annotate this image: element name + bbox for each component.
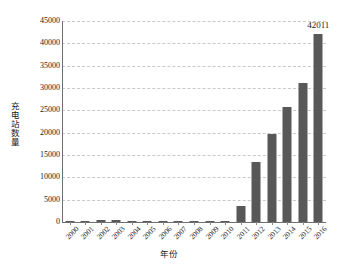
x-axis-tick-label: 2002 <box>95 225 111 241</box>
bar-slot <box>124 21 140 222</box>
bar <box>283 107 292 222</box>
x-axis-tick-label: 2001 <box>80 225 96 241</box>
x-axis-tick-labels: 2000200120022003200420052006200720082009… <box>62 222 326 250</box>
x-axis-tick-label: 2015 <box>297 225 313 241</box>
bar-slot <box>78 21 94 222</box>
x-axis-tick-mark <box>303 222 304 225</box>
bar-slot <box>171 21 187 222</box>
bar <box>298 83 307 222</box>
x-axis-tick-label: 2016 <box>313 225 329 241</box>
x-axis-tick-label: 2003 <box>111 225 127 241</box>
x-axis-tick-label: 2008 <box>188 225 204 241</box>
x-axis-tick-mark <box>241 222 242 225</box>
bar-slot <box>93 21 109 222</box>
bar-slot <box>295 21 311 222</box>
bar-slot <box>248 21 264 222</box>
x-axis-tick-mark <box>225 222 226 225</box>
x-axis-tick-label: 2004 <box>126 225 142 241</box>
y-axis-tick-label: 15000 <box>16 151 60 159</box>
y-axis-tick-label: 25000 <box>16 106 60 114</box>
bar-slot <box>109 21 125 222</box>
y-axis-tick-label: 30000 <box>16 84 60 92</box>
bar-slot <box>62 21 78 222</box>
bar <box>267 134 276 222</box>
x-axis-tick-label: 2013 <box>266 225 282 241</box>
y-axis-tick-label: 20000 <box>16 129 60 137</box>
x-axis-tick-mark <box>116 222 117 225</box>
x-axis-tick-mark <box>178 222 179 225</box>
x-axis-tick-mark <box>147 222 148 225</box>
x-axis-tick-mark <box>101 222 102 225</box>
bar-slot <box>264 21 280 222</box>
x-axis-tick-mark <box>194 222 195 225</box>
x-axis-tick-mark <box>132 222 133 225</box>
bar <box>236 206 245 222</box>
bar-value-label: 42011 <box>307 21 329 30</box>
bar-chart: 充电站数量 0500010000150002000025000300003500… <box>0 0 337 265</box>
x-axis-tick-label: 2012 <box>251 225 267 241</box>
y-axis-tick-labels: 0500010000150002000025000300003500040000… <box>16 0 60 265</box>
bar-slot <box>155 21 171 222</box>
y-axis-tick-label: 45000 <box>16 17 60 25</box>
x-axis-tick-label: 2000 <box>64 225 80 241</box>
y-axis-tick-label: 35000 <box>16 62 60 70</box>
x-axis-tick-label: 2010 <box>219 225 235 241</box>
x-axis-tick-mark <box>70 222 71 225</box>
x-axis-tick-mark <box>163 222 164 225</box>
x-axis-tick-mark <box>256 222 257 225</box>
x-axis-tick-label: 2006 <box>157 225 173 241</box>
bar <box>314 34 323 222</box>
y-axis-tick-label: 0 <box>16 218 60 226</box>
plot-area <box>62 21 326 222</box>
bars-layer <box>62 21 326 222</box>
x-axis-tick-label: 2005 <box>142 225 158 241</box>
bar-slot <box>217 21 233 222</box>
x-axis-tick-mark <box>318 222 319 225</box>
x-axis-tick-label: 2011 <box>235 225 251 241</box>
y-axis-tick-label: 10000 <box>16 173 60 181</box>
x-axis-tick-label: 2007 <box>173 225 189 241</box>
y-axis-tick-label: 5000 <box>16 196 60 204</box>
x-axis-tick-label: 2009 <box>204 225 220 241</box>
bar-slot <box>186 21 202 222</box>
x-axis-tick-label: 2014 <box>282 225 298 241</box>
bar <box>252 162 261 222</box>
bar-slot <box>233 21 249 222</box>
x-axis-tick-mark <box>85 222 86 225</box>
y-axis-tick-label: 40000 <box>16 39 60 47</box>
x-axis-tick-mark <box>210 222 211 225</box>
x-axis-title: 年份 <box>0 249 337 259</box>
bar-slot <box>202 21 218 222</box>
x-axis-tick-mark <box>272 222 273 225</box>
bar-slot <box>310 21 326 222</box>
bar-slot <box>140 21 156 222</box>
x-axis-tick-mark <box>287 222 288 225</box>
bar-slot <box>279 21 295 222</box>
